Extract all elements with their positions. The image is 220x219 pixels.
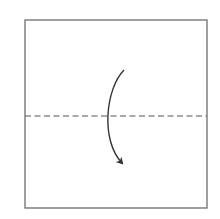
diagram-svg xyxy=(0,0,220,219)
fold-diagram xyxy=(0,0,220,219)
paper-square xyxy=(25,20,207,208)
